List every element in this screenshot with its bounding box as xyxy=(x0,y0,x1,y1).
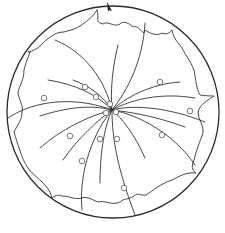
great-circle xyxy=(112,110,135,215)
pole-point xyxy=(82,84,88,90)
stereonet-diagram xyxy=(0,0,225,233)
north-arrow-icon xyxy=(107,2,112,12)
pole-point xyxy=(113,109,119,115)
pole-point xyxy=(103,110,109,116)
great-circle xyxy=(112,110,145,158)
great-circle xyxy=(112,110,195,165)
pole-point xyxy=(121,185,127,191)
great-circle xyxy=(112,23,145,110)
great-circle xyxy=(111,45,118,110)
pole-point xyxy=(97,136,103,142)
pole-point xyxy=(67,133,73,139)
great-circle xyxy=(8,102,112,118)
pole-point xyxy=(107,101,113,107)
pole-point xyxy=(157,79,163,85)
pole-point xyxy=(114,136,120,142)
pole-point xyxy=(187,108,193,114)
great-circle xyxy=(81,110,112,210)
pole-point xyxy=(93,94,99,100)
pole-point xyxy=(79,158,85,164)
great-circle xyxy=(40,107,112,116)
pole-point xyxy=(159,132,165,138)
great-circle xyxy=(100,110,112,183)
pole-point xyxy=(41,95,47,101)
